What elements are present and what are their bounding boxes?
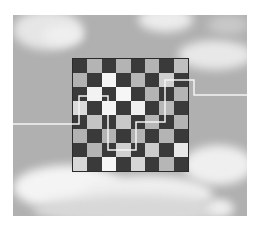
dark-square — [131, 59, 145, 73]
dark-square — [131, 143, 145, 157]
dark-square — [145, 129, 159, 143]
light-square — [174, 115, 188, 129]
cloud — [138, 15, 193, 32]
dark-square — [159, 115, 173, 129]
dark-square — [145, 101, 159, 115]
light-square — [159, 73, 173, 87]
dark-square — [131, 115, 145, 129]
light-square — [102, 129, 116, 143]
dark-square — [174, 157, 188, 171]
dark-square — [174, 73, 188, 87]
light-square — [87, 143, 101, 157]
light-square — [73, 101, 87, 115]
light-square — [87, 115, 101, 129]
light-square — [116, 143, 130, 157]
dark-square — [145, 157, 159, 171]
dark-square — [159, 87, 173, 101]
light-square — [145, 143, 159, 157]
light-square — [174, 87, 188, 101]
light-square — [73, 73, 87, 87]
cloud — [208, 200, 233, 215]
dark-square — [73, 143, 87, 157]
light-square — [73, 129, 87, 143]
cloud — [43, 25, 83, 45]
light-square — [145, 115, 159, 129]
light-square — [174, 59, 188, 73]
dark-square — [159, 59, 173, 73]
light-square — [102, 157, 116, 171]
dark-square — [102, 143, 116, 157]
cloud — [208, 15, 247, 35]
light-square — [116, 59, 130, 73]
dark-square — [87, 129, 101, 143]
dark-square — [87, 101, 101, 115]
dark-square — [102, 115, 116, 129]
dark-square — [116, 157, 130, 171]
dark-square — [102, 59, 116, 73]
dark-square — [87, 73, 101, 87]
light-square — [102, 101, 116, 115]
dark-square — [145, 73, 159, 87]
light-square — [131, 157, 145, 171]
light-square — [102, 73, 116, 87]
dark-square — [87, 157, 101, 171]
light-square — [116, 115, 130, 129]
light-square — [145, 59, 159, 73]
light-square — [131, 129, 145, 143]
dark-square — [73, 115, 87, 129]
dark-square — [116, 129, 130, 143]
light-square — [87, 59, 101, 73]
light-square — [116, 87, 130, 101]
dark-square — [131, 87, 145, 101]
light-square — [131, 101, 145, 115]
light-square — [73, 157, 87, 171]
light-square — [87, 87, 101, 101]
dark-square — [102, 87, 116, 101]
cloud — [183, 145, 247, 185]
light-square — [174, 143, 188, 157]
light-square — [145, 87, 159, 101]
light-square — [159, 129, 173, 143]
checkerboard — [72, 58, 189, 172]
dark-square — [174, 129, 188, 143]
light-square — [159, 157, 173, 171]
dark-square — [159, 143, 173, 157]
light-square — [159, 101, 173, 115]
dark-square — [116, 73, 130, 87]
dark-square — [73, 87, 87, 101]
light-square — [131, 73, 145, 87]
dark-square — [116, 101, 130, 115]
dark-square — [73, 59, 87, 73]
dark-square — [174, 101, 188, 115]
